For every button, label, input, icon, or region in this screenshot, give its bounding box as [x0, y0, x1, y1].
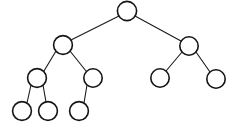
tree-edge	[196, 52, 210, 72]
tree-node[interactable]	[207, 70, 225, 88]
tree-edge	[71, 16, 119, 40]
tree-edge	[84, 85, 87, 103]
tree-edge	[135, 16, 181, 41]
tree-node[interactable]	[84, 69, 102, 87]
tree-node-circle[interactable]	[13, 102, 32, 121]
tree-canvas	[0, 0, 240, 131]
tree-node[interactable]	[180, 37, 198, 55]
edge-layer	[27, 16, 210, 103]
tree-node-circle[interactable]	[151, 69, 169, 87]
tree-edge	[44, 51, 56, 71]
tree-node[interactable]	[151, 69, 169, 87]
tree-node-circle[interactable]	[54, 36, 73, 55]
tree-edge	[43, 85, 46, 102]
tree-node-circle[interactable]	[70, 102, 89, 121]
tree-node-circle[interactable]	[117, 1, 136, 20]
tree-node[interactable]	[70, 102, 89, 121]
tree-node[interactable]	[13, 102, 32, 121]
binary-tree-diagram	[0, 0, 240, 131]
tree-node[interactable]	[28, 69, 47, 88]
tree-edge	[166, 52, 182, 71]
node-layer	[13, 1, 226, 120]
tree-node-circle[interactable]	[207, 70, 225, 88]
tree-edge	[70, 51, 86, 71]
tree-node-circle[interactable]	[84, 69, 102, 87]
tree-node-circle[interactable]	[180, 37, 198, 55]
tree-node-circle[interactable]	[39, 102, 58, 121]
tree-node-circle[interactable]	[28, 69, 47, 88]
tree-edge	[27, 85, 31, 103]
tree-node[interactable]	[39, 102, 58, 121]
tree-node[interactable]	[54, 36, 73, 55]
tree-node[interactable]	[117, 1, 136, 20]
